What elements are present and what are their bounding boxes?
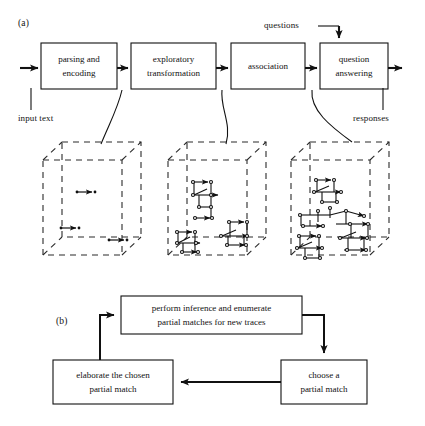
cycle-box-choose-partial-match[interactable] [281,360,367,404]
questions-label: questions [264,20,299,30]
figure-vector-layer [0,0,425,426]
memory-leader-3 [312,90,352,142]
pipeline-box-association[interactable] [231,43,305,89]
memory-cube-1[interactable] [43,142,141,255]
pipeline-box-parsing-encoding[interactable] [41,43,117,89]
input-text-label: input text [18,113,53,123]
panel-label-b: (b) [56,316,68,326]
cycle-box-perform-inference[interactable] [121,296,302,334]
questions-connector [318,26,339,38]
figure-container: (a) (b) parsing and encoding exploratory… [0,0,425,426]
memory-traces-1 [60,191,129,242]
memory-leader-2 [222,90,228,144]
responses-label: responses [353,113,389,123]
cycle-box-elaborate-partial-match[interactable] [53,360,173,404]
memory-cube-2[interactable] [168,142,266,255]
cycle-arrow-perform-to-choose [302,315,324,353]
pipeline-box-question-answering[interactable] [320,43,388,89]
memory-leader-1 [101,90,122,144]
panel-label-a: (a) [18,18,29,28]
cycle-arrow-elaborate-to-perform [100,315,114,360]
pipeline-box-exploratory-transformation[interactable] [131,43,216,89]
memory-traces-3 [296,179,370,260]
